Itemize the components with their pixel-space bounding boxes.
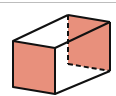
- bottom-right-depth-edge: [55, 71, 110, 94]
- rectangular-prism-diagram: [0, 0, 116, 96]
- top-left-depth-edge: [13, 15, 68, 41]
- right-shaded-face: [68, 15, 110, 71]
- left-shaded-face: [13, 41, 55, 94]
